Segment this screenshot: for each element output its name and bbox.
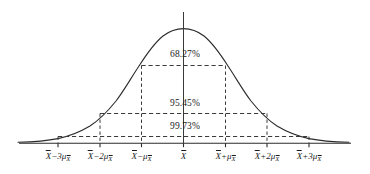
sigma-symbol: μX — [271, 151, 279, 161]
band-label-95: 95.45% — [0, 98, 370, 108]
sigma-symbol: μX — [313, 151, 321, 161]
axis-label-center-mean: X — [181, 151, 187, 161]
mean-symbol: X — [181, 151, 187, 161]
sigma-symbol: μX — [143, 151, 151, 161]
mean-symbol: X — [255, 151, 261, 161]
mean-symbol: X — [46, 151, 52, 161]
axis-label-plus-2-sigma: X+2μX — [255, 151, 280, 162]
sigma-symbol: μX — [227, 151, 235, 161]
minus-operator: − — [137, 151, 143, 161]
axis-label-plus-3-sigma: X+3μX — [297, 151, 322, 162]
mean-symbol: X — [297, 151, 303, 161]
mean-symbol: X — [88, 151, 94, 161]
mean-symbol: X — [215, 151, 221, 161]
sigma-symbol: μX — [104, 151, 112, 161]
sigma-symbol: μX — [62, 151, 70, 161]
axis-label-minus-2-sigma: X−2μX — [88, 151, 113, 162]
band-label-99: 99.73% — [0, 121, 370, 131]
normal-distribution-figure: 68.27% 95.45% 99.73% X−3μX X−2μX X−μX X … — [0, 0, 370, 174]
mean-symbol: X — [131, 151, 137, 161]
distribution-plot-svg — [0, 0, 370, 174]
axis-label-plus-1-sigma: X+μX — [215, 151, 235, 162]
axis-label-minus-1-sigma: X−μX — [131, 151, 151, 162]
band-label-68: 68.27% — [0, 49, 370, 59]
axis-label-minus-3-sigma: X−3μX — [46, 151, 71, 162]
plus-operator: + — [221, 151, 227, 161]
